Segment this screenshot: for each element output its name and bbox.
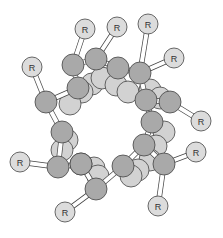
- backbone-atom: [135, 89, 157, 111]
- molecule-figure: RRRRRRRRRR: [0, 0, 223, 238]
- r-group-label: R: [193, 148, 200, 158]
- ball-and-stick-model: RRRRRRRRRR: [0, 0, 223, 238]
- r-group-label: R: [62, 208, 69, 218]
- r-group-label: R: [82, 25, 89, 35]
- backbone-atom: [35, 91, 57, 113]
- substituent-atoms: RRRRRRRRRR: [10, 14, 211, 222]
- backbone-atom: [133, 134, 155, 156]
- backbone-atom: [85, 178, 107, 200]
- backbone-atom: [107, 57, 129, 79]
- backbone-atom: [62, 54, 84, 76]
- r-group-label: R: [29, 63, 36, 73]
- backbone-atom: [159, 91, 181, 113]
- backbone-atom: [67, 77, 89, 99]
- r-group-label: R: [17, 158, 24, 168]
- r-group-label: R: [198, 117, 205, 127]
- backbone-atom: [141, 111, 163, 133]
- backbone-atom: [47, 156, 69, 178]
- backbone-atom: [112, 155, 134, 177]
- r-group-label: R: [145, 20, 152, 30]
- backbone-atom: [153, 153, 175, 175]
- backbone-atom: [129, 62, 151, 84]
- r-group-label: R: [155, 202, 162, 212]
- r-group-label: R: [114, 23, 121, 33]
- backbone-atom: [70, 153, 92, 175]
- backbone-atom: [51, 121, 73, 143]
- backbone-atom: [85, 48, 107, 70]
- r-group-label: R: [171, 54, 178, 64]
